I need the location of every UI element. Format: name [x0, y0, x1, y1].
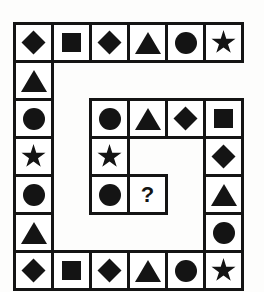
triangle-icon: [135, 260, 161, 282]
puzzle-cell-r3c6[interactable]: [203, 98, 244, 139]
puzzle-cell-r2c1[interactable]: [13, 60, 54, 101]
star-icon: [211, 30, 236, 55]
puzzle-cell-r4c6[interactable]: [203, 136, 244, 177]
puzzle-cell-r7c3[interactable]: [89, 250, 130, 291]
diamond-icon: [97, 258, 121, 282]
puzzle-cell-r5c6[interactable]: [203, 174, 244, 215]
puzzle-cell-empty-r2c2: [51, 60, 92, 101]
circle-icon: [23, 108, 45, 130]
triangle-icon: [21, 70, 47, 92]
triangle-icon: [135, 108, 161, 130]
triangle-icon: [211, 184, 237, 206]
puzzle-cell-r3c4[interactable]: [127, 98, 168, 139]
circle-icon: [175, 32, 197, 54]
puzzle-cell-empty-r2c3: [89, 60, 130, 101]
puzzle-cell-r1c4[interactable]: [127, 22, 168, 63]
triangle-icon: [21, 222, 47, 244]
puzzle-cell-r3c1[interactable]: [13, 98, 54, 139]
puzzle-cell-r5c1[interactable]: [13, 174, 54, 215]
puzzle-cell-empty-r4c2: [51, 136, 92, 177]
puzzle-cell-r1c1[interactable]: [13, 22, 54, 63]
puzzle-cell-empty-r3c2: [51, 98, 92, 139]
puzzle-cell-r4c3[interactable]: [89, 136, 130, 177]
puzzle-cell-empty-r5c2: [51, 174, 92, 215]
puzzle-cell-r1c5[interactable]: [165, 22, 206, 63]
puzzle-cell-empty-r2c4: [127, 60, 168, 101]
triangle-icon: [135, 32, 161, 54]
puzzle-cell-r1c2[interactable]: [51, 22, 92, 63]
puzzle-cell-r7c6[interactable]: [203, 250, 244, 291]
puzzle-cell-empty-r4c5: [165, 136, 206, 177]
puzzle-cell-empty-r5c5: [165, 174, 206, 215]
puzzle-cell-r5c3[interactable]: [89, 174, 130, 215]
diamond-icon: [21, 30, 45, 54]
puzzle-cell-empty-r6c3: [89, 212, 130, 253]
puzzle-cell-empty-r6c5: [165, 212, 206, 253]
star-icon: [97, 144, 122, 169]
square-icon: [62, 33, 81, 52]
circle-icon: [23, 184, 45, 206]
diamond-icon: [173, 106, 197, 130]
puzzle-cell-r7c4[interactable]: [127, 250, 168, 291]
puzzle-cell-r1c3[interactable]: [89, 22, 130, 63]
shape-spiral-puzzle-grid: ?: [13, 22, 241, 281]
star-icon: [21, 144, 46, 169]
diamond-icon: [211, 144, 235, 168]
diamond-icon: [21, 258, 45, 282]
puzzle-cell-r4c1[interactable]: [13, 136, 54, 177]
square-icon: [62, 261, 81, 280]
circle-icon: [175, 260, 197, 282]
circle-icon: [99, 108, 121, 130]
puzzle-cell-empty-r2c5: [165, 60, 206, 101]
puzzle-cell-r5c4[interactable]: ?: [127, 174, 168, 215]
missing-shape-question-mark: ?: [141, 184, 154, 206]
puzzle-cell-r3c5[interactable]: [165, 98, 206, 139]
puzzle-cell-r7c1[interactable]: [13, 250, 54, 291]
circle-icon: [213, 222, 235, 244]
puzzle-cell-empty-r4c4: [127, 136, 168, 177]
puzzle-cell-empty-r2c6: [203, 60, 244, 101]
puzzle-cell-r6c1[interactable]: [13, 212, 54, 253]
puzzle-cell-r6c6[interactable]: [203, 212, 244, 253]
puzzle-cell-r7c5[interactable]: [165, 250, 206, 291]
puzzle-cell-empty-r6c4: [127, 212, 168, 253]
square-icon: [214, 109, 233, 128]
circle-icon: [99, 184, 121, 206]
diamond-icon: [97, 30, 121, 54]
puzzle-cell-r1c6[interactable]: [203, 22, 244, 63]
puzzle-cell-r3c3[interactable]: [89, 98, 130, 139]
puzzle-cell-empty-r6c2: [51, 212, 92, 253]
star-icon: [211, 258, 236, 283]
puzzle-cell-r7c2[interactable]: [51, 250, 92, 291]
